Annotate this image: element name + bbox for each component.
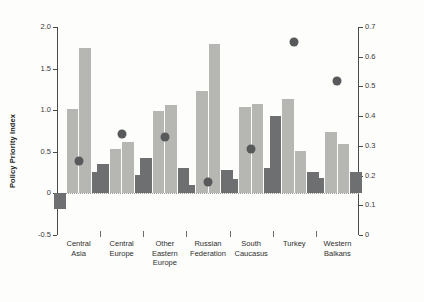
x-axis-tick-mark bbox=[230, 231, 231, 237]
x-axis-tick-mark bbox=[316, 231, 317, 237]
y-axis-right-tick-label: 0.2 bbox=[365, 172, 375, 180]
y-axis-left-tick-label: 1.5 bbox=[41, 65, 51, 73]
y-axis-right-tick-mark bbox=[359, 116, 363, 117]
y-axis-left-tick-mark bbox=[53, 110, 57, 111]
y-axis-left-tick-label: 0 bbox=[47, 190, 51, 198]
x-axis-tick-mark bbox=[273, 231, 274, 237]
bar bbox=[350, 172, 362, 194]
bar bbox=[153, 111, 165, 193]
data-point-dot bbox=[204, 177, 213, 186]
y-axis-right-tick-label: 0.4 bbox=[365, 112, 375, 120]
bar bbox=[227, 179, 239, 193]
bar bbox=[97, 164, 109, 193]
y-axis-right-tick-mark bbox=[359, 57, 363, 58]
y-axis-left-tick-mark bbox=[53, 27, 57, 28]
y-axis-left-tick-mark bbox=[53, 152, 57, 153]
bar bbox=[209, 44, 221, 193]
data-point-dot bbox=[333, 76, 342, 85]
x-axis-category-label: Russian Federation bbox=[190, 239, 226, 258]
bar bbox=[313, 178, 325, 194]
bar bbox=[295, 151, 307, 193]
x-axis-category-label: Other Eastern Europe bbox=[152, 239, 178, 268]
bar bbox=[122, 142, 134, 194]
y-axis-left-tick-label: -0.5 bbox=[38, 231, 51, 239]
data-point-dot bbox=[160, 132, 169, 141]
plot-area: 2.01.51.00.50-0.5 0.70.60.50.40.30.20.10 bbox=[57, 27, 359, 235]
y-axis-left-tick-label: 0.5 bbox=[41, 148, 51, 156]
bar bbox=[140, 158, 152, 194]
x-axis-category-label: Western Balkans bbox=[324, 239, 352, 258]
x-axis-category-label: Turkey bbox=[283, 239, 306, 249]
x-axis-tick-mark bbox=[186, 231, 187, 237]
y-axis-left-tick-label: 2.0 bbox=[41, 23, 51, 31]
y-axis-right-tick-label: 0.5 bbox=[365, 83, 375, 91]
bar bbox=[184, 185, 196, 193]
chart-container: Policy Priority Index Propensity to trad… bbox=[0, 0, 424, 302]
y-axis-left-title: Policy Priority Index bbox=[8, 114, 17, 188]
x-axis-tick-mark bbox=[143, 231, 144, 237]
y-axis-left-tick-mark bbox=[53, 69, 57, 70]
bar bbox=[165, 105, 177, 193]
bar bbox=[282, 99, 294, 194]
y-axis-right-tick-label: 0.6 bbox=[365, 53, 375, 61]
y-axis-right-line bbox=[358, 27, 359, 235]
bar bbox=[270, 116, 282, 193]
bar bbox=[54, 193, 66, 209]
y-axis-left-tick-mark bbox=[53, 235, 57, 236]
y-axis-right-tick-label: 0 bbox=[365, 231, 369, 239]
x-axis-category-label: Central Asia bbox=[66, 239, 90, 258]
data-point-dot bbox=[117, 129, 126, 138]
zero-baseline bbox=[57, 193, 359, 194]
y-axis-right-tick-mark bbox=[359, 205, 363, 206]
bar bbox=[79, 48, 91, 194]
x-axis-category-label: South Caucasus bbox=[234, 239, 267, 258]
y-axis-left-tick-label: 1.0 bbox=[41, 106, 51, 114]
y-axis-right-tick-label: 0.7 bbox=[365, 23, 375, 31]
y-axis-right-tick-label: 0.3 bbox=[365, 142, 375, 150]
y-axis-right-tick-mark bbox=[359, 235, 363, 236]
data-point-dot bbox=[290, 37, 299, 46]
data-point-dot bbox=[74, 156, 83, 165]
bar bbox=[325, 132, 337, 194]
bar bbox=[338, 144, 350, 193]
y-axis-right-tick-label: 0.1 bbox=[365, 202, 375, 210]
y-axis-right-tick-mark bbox=[359, 146, 363, 147]
bar bbox=[110, 149, 122, 193]
y-axis-right-tick-mark bbox=[359, 86, 363, 87]
x-axis-category-labels: Central AsiaCentral EuropeOther Eastern … bbox=[57, 239, 359, 284]
y-axis-right-tick-mark bbox=[359, 27, 363, 28]
x-axis-category-label: Central Europe bbox=[110, 239, 134, 258]
data-point-dot bbox=[247, 144, 256, 153]
x-axis-tick-mark bbox=[100, 231, 101, 237]
bar bbox=[67, 109, 79, 194]
